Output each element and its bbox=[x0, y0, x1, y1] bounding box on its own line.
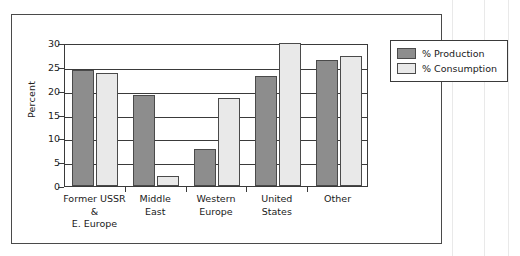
bar-consumption-4 bbox=[340, 56, 362, 186]
bar-consumption-1 bbox=[157, 176, 179, 186]
x-tick-mark-3 bbox=[246, 187, 247, 192]
bar-production-3 bbox=[255, 76, 277, 186]
y-tick-label-5: 5 bbox=[36, 158, 60, 168]
y-tick-label-20: 20 bbox=[36, 87, 60, 97]
y-tick-label-0: 0 bbox=[36, 182, 60, 192]
bar-production-2 bbox=[194, 149, 216, 186]
bar-consumption-3 bbox=[279, 43, 301, 186]
legend-swatch-icon-production bbox=[397, 48, 416, 59]
y-axis-label: Percent bbox=[26, 65, 37, 135]
y-axis-tick-labels: 051015202530 bbox=[36, 39, 60, 193]
bar-production-4 bbox=[316, 60, 338, 186]
y-tick-mark-10 bbox=[58, 139, 64, 140]
legend-item-label: % Production bbox=[422, 48, 485, 59]
y-tick-label-10: 10 bbox=[36, 134, 60, 144]
legend-item-label: % Consumption bbox=[422, 63, 497, 74]
y-tick-mark-20 bbox=[58, 92, 64, 93]
bar-consumption-0 bbox=[96, 73, 118, 186]
bar-consumption-2 bbox=[218, 98, 240, 186]
y-tick-mark-30 bbox=[58, 44, 64, 45]
legend-item-consumption[interactable]: % Consumption bbox=[397, 61, 501, 76]
plot-area bbox=[64, 44, 368, 187]
legend-item-production[interactable]: % Production bbox=[397, 46, 501, 61]
chart-legend: % Production% Consumption bbox=[390, 40, 508, 82]
y-tick-mark-25 bbox=[58, 68, 64, 69]
bar-production-1 bbox=[133, 95, 155, 186]
legend-swatch-icon-consumption bbox=[397, 63, 416, 74]
y-tick-mark-15 bbox=[58, 116, 64, 117]
x-category-label-4: Other bbox=[301, 193, 374, 206]
x-tick-mark-4 bbox=[307, 187, 308, 192]
x-tick-mark-2 bbox=[186, 187, 187, 192]
y-tick-label-30: 30 bbox=[36, 39, 60, 49]
y-tick-label-15: 15 bbox=[36, 111, 60, 121]
y-tick-mark-5 bbox=[58, 163, 64, 164]
x-tick-mark-1 bbox=[125, 187, 126, 192]
bar-production-0 bbox=[72, 70, 94, 186]
y-tick-mark-0 bbox=[58, 187, 64, 188]
y-tick-label-25: 25 bbox=[36, 63, 60, 73]
bar-chart-figure: Percent 051015202530 % Production% Consu… bbox=[0, 0, 520, 256]
